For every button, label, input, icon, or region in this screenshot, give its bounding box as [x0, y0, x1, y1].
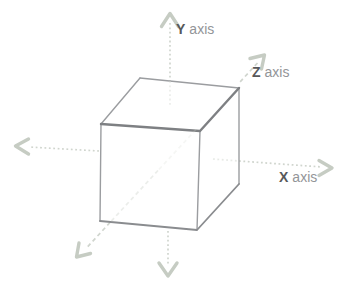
x-axis-label: Xaxis: [279, 169, 317, 185]
y-axis-label: Yaxis: [176, 21, 214, 37]
y-axis-down-arrowhead-icon: [159, 263, 177, 276]
z-axis-label: Zaxis: [252, 64, 289, 80]
x-axis-right-arrowhead-icon: [319, 161, 332, 176]
x-axis-label-word: axis: [292, 169, 317, 185]
cube-edge-left-vertical: [100, 124, 101, 221]
cube-axes-diagram: Yaxis Zaxis Xaxis: [0, 0, 349, 293]
x-axis-left-arrowhead-icon: [16, 139, 29, 154]
diagram-canvas: Yaxis Zaxis Xaxis: [0, 0, 349, 293]
y-axis-label-word: axis: [189, 21, 214, 37]
z-axis-label-letter: Z: [252, 64, 261, 80]
x-axis-left-line: [29, 147, 99, 151]
x-axis-label-letter: X: [279, 169, 289, 185]
z-axis-down-line: [86, 223, 110, 249]
cube: [100, 78, 239, 230]
cube-front-face: [100, 124, 200, 230]
x-axis-right-line: [239, 161, 322, 167]
z-axis-label-word: axis: [265, 64, 290, 80]
y-axis-label-letter: Y: [176, 21, 186, 37]
